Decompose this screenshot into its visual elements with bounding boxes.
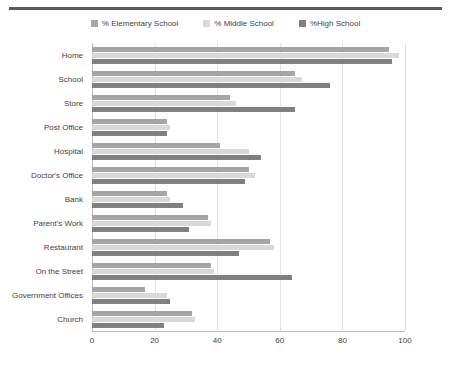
bar-group	[92, 187, 405, 211]
bar-stack	[92, 143, 405, 160]
y-axis-label: On the Street	[0, 259, 88, 283]
bar-stack	[92, 263, 405, 280]
bar[interactable]	[92, 59, 392, 64]
bar[interactable]	[92, 83, 330, 88]
bar-stack	[92, 119, 405, 136]
bar-stack	[92, 215, 405, 232]
bar[interactable]	[92, 101, 236, 106]
bar[interactable]	[92, 275, 292, 280]
bar[interactable]	[92, 263, 211, 268]
legend-label: %High School	[310, 19, 360, 28]
bar-group	[92, 115, 405, 139]
bar[interactable]	[92, 299, 170, 304]
bar[interactable]	[92, 293, 167, 298]
bar-stack	[92, 167, 405, 184]
bar-group	[92, 211, 405, 235]
y-axis-label: Parent's Work	[0, 211, 88, 235]
y-axis-label: Hospital	[0, 139, 88, 163]
bar[interactable]	[92, 191, 167, 196]
bar-stack	[92, 71, 405, 88]
bar[interactable]	[92, 239, 270, 244]
y-axis-label: Doctor's Office	[0, 163, 88, 187]
bar[interactable]	[92, 269, 214, 274]
bar-stack	[92, 239, 405, 256]
x-axis-tick-label: 100	[398, 336, 411, 346]
bar[interactable]	[92, 47, 389, 52]
bar[interactable]	[92, 203, 183, 208]
legend-item[interactable]: %High School	[299, 19, 360, 28]
y-axis-label: School	[0, 67, 88, 91]
bar[interactable]	[92, 167, 249, 172]
bar[interactable]	[92, 95, 230, 100]
bar[interactable]	[92, 125, 170, 130]
bar[interactable]	[92, 119, 167, 124]
header-divider	[9, 7, 442, 10]
x-axis-line	[92, 331, 405, 332]
legend-label: % Middle School	[214, 19, 274, 28]
y-axis-label: Restaurant	[0, 235, 88, 259]
bar[interactable]	[92, 251, 239, 256]
bar-group	[92, 307, 405, 331]
bar[interactable]	[92, 107, 295, 112]
bar-rows	[92, 43, 405, 331]
legend-swatch-icon	[299, 20, 306, 27]
y-axis-label: Bank	[0, 187, 88, 211]
y-axis-label: Store	[0, 91, 88, 115]
bar[interactable]	[92, 317, 195, 322]
bar-group	[92, 67, 405, 91]
bar[interactable]	[92, 221, 211, 226]
legend-swatch-icon	[203, 20, 210, 27]
bar-stack	[92, 47, 405, 64]
x-axis-tick-label: 60	[275, 336, 284, 346]
bar-stack	[92, 191, 405, 208]
bar-group	[92, 139, 405, 163]
plot-area	[92, 43, 405, 331]
bar[interactable]	[92, 323, 164, 328]
x-axis-tick-label: 0	[90, 336, 94, 346]
bar-group	[92, 43, 405, 67]
chart-legend: % Elementary School% Middle School%High …	[0, 19, 451, 28]
bar[interactable]	[92, 173, 255, 178]
bar[interactable]	[92, 179, 245, 184]
x-axis-tick-labels: 020406080100	[92, 336, 405, 350]
bar[interactable]	[92, 197, 170, 202]
bar-stack	[92, 95, 405, 112]
y-axis-label: Church	[0, 307, 88, 331]
bar[interactable]	[92, 227, 189, 232]
bar[interactable]	[92, 245, 274, 250]
y-axis-label: Home	[0, 43, 88, 67]
y-axis-label: Post Office	[0, 115, 88, 139]
x-axis-tick-label: 80	[338, 336, 347, 346]
bar-group	[92, 91, 405, 115]
legend-label: % Elementary School	[102, 19, 178, 28]
bar[interactable]	[92, 149, 249, 154]
x-axis-tick-label: 20	[150, 336, 159, 346]
bar-group	[92, 283, 405, 307]
bar[interactable]	[92, 215, 208, 220]
bar[interactable]	[92, 71, 295, 76]
bar[interactable]	[92, 53, 399, 58]
bar[interactable]	[92, 287, 145, 292]
legend-item[interactable]: % Middle School	[203, 19, 274, 28]
bar-stack	[92, 287, 405, 304]
bar[interactable]	[92, 131, 167, 136]
legend-item[interactable]: % Elementary School	[91, 19, 178, 28]
bar-group	[92, 259, 405, 283]
bar[interactable]	[92, 311, 192, 316]
y-axis-label: Government Offices	[0, 283, 88, 307]
x-axis-tick-label: 40	[213, 336, 222, 346]
chart-figure: % Elementary School% Middle School%High …	[0, 0, 451, 370]
bar-group	[92, 163, 405, 187]
bar[interactable]	[92, 77, 302, 82]
y-axis-category-labels: HomeSchoolStorePost OfficeHospitalDoctor…	[0, 43, 88, 331]
bar-stack	[92, 311, 405, 328]
legend-swatch-icon	[91, 20, 98, 27]
bar[interactable]	[92, 155, 261, 160]
bar-group	[92, 235, 405, 259]
gridline	[405, 43, 406, 331]
bar[interactable]	[92, 143, 220, 148]
